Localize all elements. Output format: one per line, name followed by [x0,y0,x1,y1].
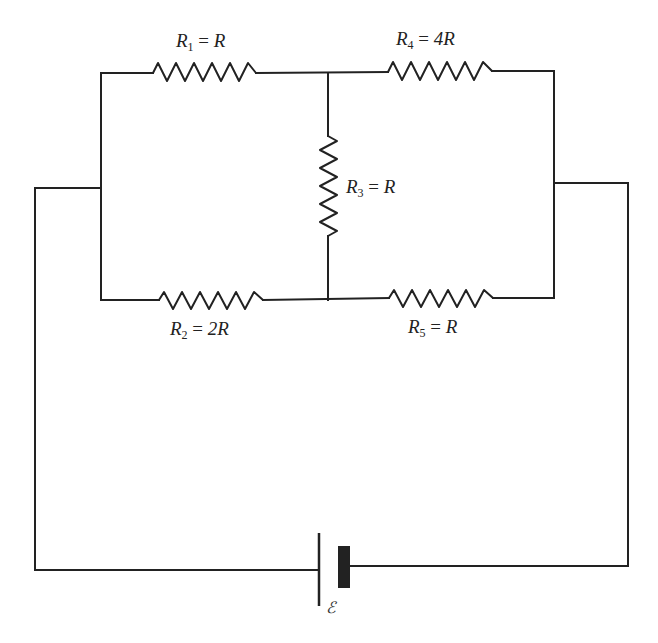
resistor-r1 [153,63,256,81]
label-r4: R4 = 4R [396,28,455,53]
battery-short-plate [338,546,350,588]
wire-bottom-mid [263,298,389,300]
label-r2: R2 = 2R [170,318,229,343]
wire-outer-right [349,183,628,566]
circuit-diagram [0,0,658,643]
resistor-r5 [389,290,493,307]
label-r3: R3 = R [346,176,395,201]
label-r1: R1 = R [176,30,225,55]
wire-top-mid [256,72,388,73]
wire-outer-left [35,188,318,570]
resistor-r4 [388,62,492,80]
label-emf: ℰ [326,598,336,617]
resistor-r2 [159,292,263,309]
label-r5: R5 = R [408,316,457,341]
resistor-r3 [320,136,337,236]
wire-top-right [492,71,554,298]
